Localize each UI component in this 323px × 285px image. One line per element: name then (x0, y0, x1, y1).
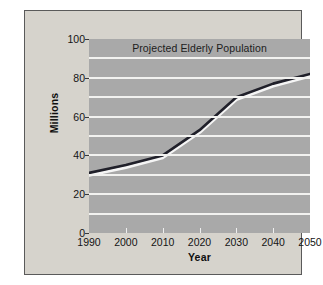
gridline (89, 135, 310, 137)
x-tick-mark (273, 228, 274, 233)
x-tick-label: 2050 (290, 236, 323, 248)
x-tick-label: 2010 (143, 236, 183, 248)
gridline (89, 154, 310, 156)
gridline (89, 193, 310, 195)
scan-artifact (309, 244, 314, 251)
x-tick-label: 1990 (69, 236, 109, 248)
x-tick-mark (236, 228, 237, 233)
gridline (89, 174, 310, 176)
x-axis: 1990200020102020203020402050 (89, 233, 310, 253)
data-line-highlight (89, 76, 310, 175)
x-tick-mark (200, 228, 201, 233)
x-tick-label: 2030 (216, 236, 256, 248)
gridline (89, 96, 310, 98)
y-axis-title: Millions (48, 68, 60, 158)
chart-panel: 020406080100 Millions Projected Elderly … (24, 10, 302, 275)
x-tick-label: 2040 (253, 236, 293, 248)
y-tick-label: 100 (51, 34, 85, 44)
gridline (89, 116, 310, 118)
x-tick-label: 2000 (106, 236, 146, 248)
x-axis-title: Year (89, 251, 310, 263)
gridline (89, 213, 310, 215)
data-line (89, 74, 310, 173)
y-tick-label: 20 (51, 189, 85, 199)
x-tick-mark (163, 228, 164, 233)
gridline (89, 57, 310, 59)
figure-root: 020406080100 Millions Projected Elderly … (0, 0, 323, 285)
plot-area (89, 39, 310, 233)
x-tick-label: 2020 (180, 236, 220, 248)
chart-title: Projected Elderly Population (89, 42, 310, 54)
x-tick-mark (126, 228, 127, 233)
gridline (89, 77, 310, 79)
